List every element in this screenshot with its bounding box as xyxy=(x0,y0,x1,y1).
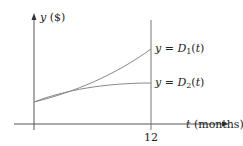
curve-d1 xyxy=(34,49,151,102)
x-axis-label-text: t (months) xyxy=(186,118,243,131)
curve-d2 xyxy=(34,83,151,102)
x-tick-12: 12 xyxy=(144,131,158,144)
y-axis-arrow-icon xyxy=(32,13,37,20)
curve-d2-label: y = D2(t) xyxy=(154,76,204,90)
chart: y ($) t (months) 12 y = D1(t) y = D2(t) xyxy=(0,0,243,146)
y-axis-label: y ($) xyxy=(39,11,65,24)
curve-d1-label: y = D1(t) xyxy=(154,42,204,56)
